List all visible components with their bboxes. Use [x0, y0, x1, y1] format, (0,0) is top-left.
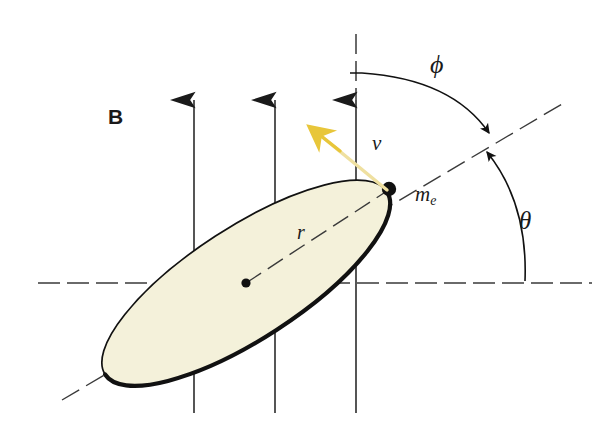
angle-phi-group [350, 73, 489, 133]
diagram-canvas [0, 0, 607, 436]
angle-phi-label: ϕ [430, 52, 443, 78]
physics-diagram-figure: B ϕ θ v r me [0, 0, 607, 436]
radius-label: r [297, 222, 305, 242]
velocity-label: v [372, 133, 381, 154]
electron-mass-label: me [415, 184, 436, 208]
electron-mass-subscript: e [430, 193, 436, 208]
angle-phi-arc [362, 73, 489, 133]
magnetic-field-label: B [108, 106, 124, 127]
velocity-arrow-head-line [311, 128, 340, 151]
angle-theta-label: θ [519, 208, 531, 233]
orbit-center-point [241, 278, 250, 287]
electron-mass-symbol: m [415, 182, 430, 206]
